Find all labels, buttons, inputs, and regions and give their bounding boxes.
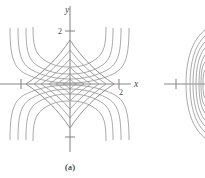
y-axis-tick-label-2: 2	[58, 27, 62, 36]
contour-line	[71, 27, 106, 67]
panel-a-group: y x 2 2	[0, 5, 139, 152]
x-axis-tick-label-2: 2	[119, 88, 123, 97]
contour-plot-svg: y x 2 2	[0, 0, 205, 178]
contour-line	[70, 89, 121, 140]
x-axis-label: x	[133, 79, 139, 89]
figure-caption: (a)	[65, 162, 75, 172]
contour-line	[71, 101, 106, 141]
panel-b-partial-group	[164, 30, 205, 138]
contour-line	[33, 101, 69, 141]
contour-figure-panel: y x 2 2 (a)	[0, 0, 205, 178]
contour-family-lower-left	[10, 85, 70, 141]
contour-line	[70, 28, 121, 79]
y-axis-label: y	[64, 5, 70, 15]
contour-line	[33, 27, 69, 67]
figure-caption-wrap: (a)	[0, 156, 140, 174]
